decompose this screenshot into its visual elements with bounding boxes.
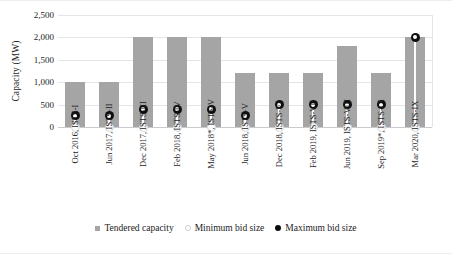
legend-item[interactable]: Maximum bid size xyxy=(275,223,356,233)
x-tick-label-text: Sep 2019*, ISTS-IX xyxy=(376,99,386,169)
x-tick-label: Dec 2018, ISTS-VI xyxy=(262,129,296,213)
x-tick-label: Oct 2016, ISTS-I xyxy=(58,129,92,213)
legend-item[interactable]: Tendered capacity xyxy=(95,223,173,233)
legend-square-icon xyxy=(95,226,100,231)
chart-figure: Capacity (MW) 05001,0001,5002,0002,500 O… xyxy=(0,0,452,254)
x-tick-label-text: May 2018*, ISTS-V xyxy=(206,99,216,169)
legend-item-label: Tendered capacity xyxy=(104,223,173,233)
y-tick-label: 2,500 xyxy=(34,10,54,20)
x-tick-label: Feb 2018, ISTS-IV xyxy=(160,129,194,213)
y-axis-tick-labels: 05001,0001,5002,0002,500 xyxy=(24,15,56,127)
y-axis-title: Capacity (MW) xyxy=(8,15,24,127)
x-tick-label: Jun 2018, ISTS-V xyxy=(228,129,262,213)
x-tick-label-text: Mar 2020, ISTS-IX xyxy=(410,101,420,168)
x-tick-label: Jun 2017, ISTS-II xyxy=(92,129,126,213)
x-tick-label-text: Jun 2018, ISTS-V xyxy=(240,103,250,165)
y-tick-label: 1,000 xyxy=(34,77,54,87)
x-tick-label: Sep 2019*, ISTS-IX xyxy=(364,129,398,213)
y-axis-title-label: Capacity (MW) xyxy=(11,40,21,101)
x-tick-label: Mar 2020, ISTS-IX xyxy=(398,129,432,213)
legend-item-label: Minimum bid size xyxy=(195,223,265,233)
x-tick-label: Dec 2017, ISTS-III xyxy=(126,129,160,213)
x-tick-label-text: Dec 2018, ISTS-VI xyxy=(274,101,284,167)
marker-inner-ring xyxy=(413,35,417,39)
legend-item[interactable]: Minimum bid size xyxy=(185,223,265,233)
x-axis-tick-labels: Oct 2016, ISTS-IJun 2017, ISTS-IIDec 201… xyxy=(58,129,432,213)
x-tick-label-text: Feb 2019, ISTS-VII xyxy=(308,100,318,168)
x-tick-label-text: Dec 2017, ISTS-III xyxy=(138,101,148,167)
x-tick-label-text: Oct 2016, ISTS-I xyxy=(70,105,80,164)
y-tick-label: 1,500 xyxy=(34,55,54,65)
legend-open-circle-icon xyxy=(185,225,191,231)
y-tick-label: 500 xyxy=(41,100,55,110)
x-tick-label-text: Jun 2019, ISTS-VIII xyxy=(342,99,352,169)
x-tick-label-text: Feb 2018, ISTS-IV xyxy=(172,101,182,166)
x-tick-label: Jun 2019, ISTS-VIII xyxy=(330,129,364,213)
x-tick-label-text: Jun 2017, ISTS-II xyxy=(104,103,114,164)
y-tick-label: 0 xyxy=(50,122,55,132)
legend-item-label: Maximum bid size xyxy=(285,223,356,233)
y-tick-label: 2,000 xyxy=(34,32,54,42)
legend-filled-circle-icon xyxy=(275,225,281,231)
x-tick-label: May 2018*, ISTS-V xyxy=(194,129,228,213)
x-tick-label: Feb 2019, ISTS-VII xyxy=(296,129,330,213)
chart-legend: Tendered capacityMinimum bid sizeMaximum… xyxy=(0,223,452,233)
marker-maximum-bid-size[interactable] xyxy=(411,33,420,42)
